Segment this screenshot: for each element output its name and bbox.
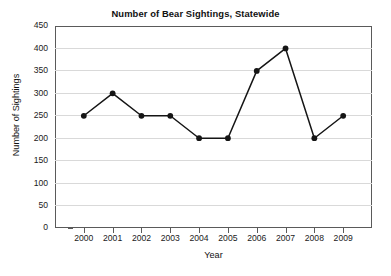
x-tick-mark (113, 228, 114, 233)
y-tick-label: 150 (22, 156, 48, 165)
data-point (139, 113, 145, 119)
y-tick-label: 350 (22, 66, 48, 75)
data-point (81, 113, 87, 119)
y-tick-label: 50 (22, 201, 48, 210)
x-tick-mark (286, 228, 287, 233)
data-point (283, 46, 289, 52)
x-axis-title: Year (55, 250, 372, 260)
y-tick-label: 100 (22, 179, 48, 188)
y-tick-label: 300 (22, 89, 48, 98)
y-tick-mark (68, 228, 73, 229)
x-tick-mark (84, 228, 85, 233)
x-tick-mark (343, 228, 344, 233)
y-tick-label: 250 (22, 111, 48, 120)
data-point (225, 135, 231, 141)
y-tick-label: 400 (22, 44, 48, 53)
y-tick-label: 450 (22, 21, 48, 30)
line-chart: Number of Bear Sightings, Statewide Numb… (0, 0, 391, 276)
data-point (167, 113, 173, 119)
plot-canvas (55, 26, 372, 228)
data-point (110, 90, 116, 96)
y-axis-tick-labels: 050100150200250300350400450 (18, 0, 48, 276)
gridlines (55, 48, 372, 205)
x-tick-mark (141, 228, 142, 233)
x-tick-mark (170, 228, 171, 233)
data-point (254, 68, 260, 74)
x-tick-mark (228, 228, 229, 233)
x-tick-label: 2009 (323, 234, 363, 243)
chart-title: Number of Bear Sightings, Statewide (0, 8, 391, 19)
x-tick-mark (257, 228, 258, 233)
data-point (340, 113, 346, 119)
y-tick-label: 0 (22, 223, 48, 232)
x-tick-mark (199, 228, 200, 233)
y-tick-label: 200 (22, 134, 48, 143)
data-point (196, 135, 202, 141)
data-point (311, 135, 317, 141)
x-tick-mark (314, 228, 315, 233)
